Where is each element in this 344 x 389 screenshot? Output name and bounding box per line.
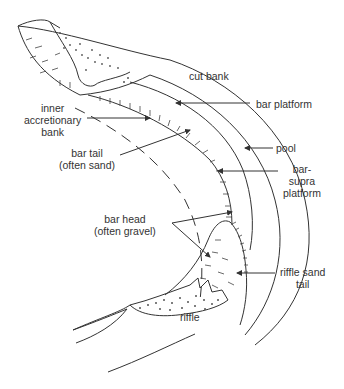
- upper-sand-dashes: [26, 38, 70, 88]
- riffle-outline: [73, 278, 228, 330]
- label-riffle: riffle: [180, 311, 200, 323]
- pool-inner-line: [150, 75, 280, 335]
- accretionary-bank-hatching: [100, 96, 232, 217]
- label-line: riffle sand: [280, 266, 325, 278]
- label-line: accretionary: [24, 114, 81, 126]
- label-pool: pool: [276, 142, 296, 154]
- label-line: supra: [283, 175, 321, 187]
- riffle-gravel-dots: [139, 295, 219, 311]
- label-line: inner: [24, 102, 81, 114]
- label-bar-supra-platform: bar- supra platform: [283, 163, 321, 199]
- cut-bank-line: [18, 26, 309, 345]
- label-line: bar-: [283, 163, 321, 175]
- label-bar-tail: bar tail (often sand): [59, 147, 115, 171]
- arrow-bar-head-lower: [172, 223, 210, 257]
- upper-bar-sand-outline: [50, 22, 130, 86]
- label-line: bank: [24, 126, 81, 138]
- label-line: bar head: [94, 213, 156, 225]
- label-riffle-sand-tail: riffle sand tail: [280, 266, 325, 290]
- label-inner-accretionary-bank: inner accretionary bank: [24, 102, 81, 138]
- downstream-right-bank: [108, 334, 195, 372]
- label-bar-platform: bar platform: [256, 98, 312, 110]
- label-bar-head: bar head (often gravel): [94, 213, 156, 237]
- label-line: tail: [280, 278, 325, 290]
- bar-tail-dashed-line: [75, 108, 202, 300]
- label-line: (often gravel): [94, 225, 156, 237]
- arrow-bar-tail: [120, 130, 190, 155]
- label-line: platform: [283, 187, 321, 199]
- label-line: bar tail: [59, 147, 115, 159]
- label-line: (often sand): [59, 159, 115, 171]
- downstream-left-bank-upper: [73, 309, 127, 330]
- upper-gravel-dots: [59, 32, 129, 83]
- label-cut-bank: cut bank: [189, 70, 229, 82]
